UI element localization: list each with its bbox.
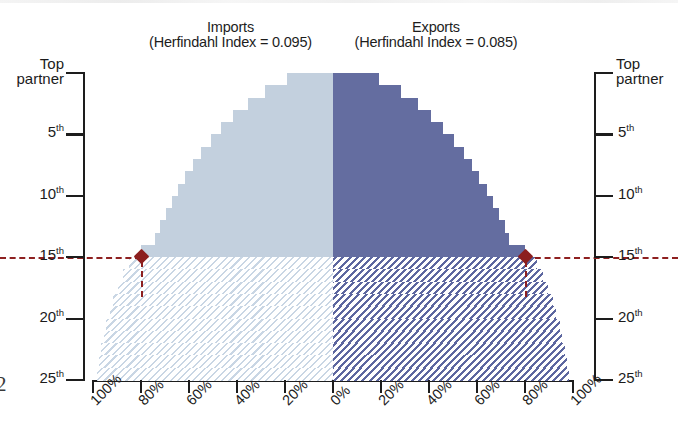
y-tick-top-partner-right — [594, 72, 613, 74]
imports-bar — [172, 196, 333, 209]
y-label-right-5: 5th — [618, 123, 678, 139]
exports-title-line1: Exports — [330, 20, 542, 35]
chart-row — [93, 159, 573, 172]
exports-bar — [333, 331, 562, 344]
exports-bar — [333, 294, 553, 307]
exports-bar — [333, 269, 543, 282]
chart-row — [93, 184, 573, 197]
imports-title-line2: (Herfindahl Index = 0.095) — [128, 35, 333, 50]
exports-bar — [333, 355, 567, 368]
chart-row — [93, 331, 573, 344]
chart-row — [93, 220, 573, 233]
chart-row — [93, 73, 573, 86]
imports-bar — [287, 73, 333, 86]
chart-row — [93, 147, 573, 160]
y-label-left-5: 5th — [2, 123, 64, 139]
imports-bar — [106, 319, 333, 332]
y-label-right-top-partner: Toppartner — [616, 56, 678, 87]
exports-bar — [333, 343, 565, 356]
y-tick-20-left — [66, 318, 85, 320]
y-tick-5-right — [594, 133, 613, 135]
y-label-right-25: 25th — [618, 369, 678, 385]
exports-bar — [333, 134, 454, 147]
exports-title: Exports (Herfindahl Index = 0.085) — [330, 20, 542, 51]
exports-bar — [333, 319, 560, 332]
y-label-left-10: 10th — [2, 185, 64, 201]
y-label-right-10: 10th — [618, 185, 678, 201]
chart-row — [93, 245, 573, 258]
reference-drop-exports — [525, 261, 527, 297]
y-tick-20-right — [594, 318, 613, 320]
chart-row — [93, 269, 573, 282]
chart-row — [93, 319, 573, 332]
exports-bar — [333, 306, 556, 319]
exports-bar — [333, 233, 509, 246]
plot-area — [93, 73, 573, 380]
imports-bar — [113, 294, 333, 307]
exports-bar — [333, 122, 443, 135]
imports-bar — [178, 184, 333, 197]
chart-row — [93, 368, 573, 381]
chart-row — [93, 233, 573, 246]
chart-row — [93, 98, 573, 111]
exports-bar — [333, 368, 569, 381]
exports-bar — [333, 147, 464, 160]
imports-bar — [99, 355, 333, 368]
imports-bar — [118, 282, 333, 295]
chart-row — [93, 85, 573, 98]
page-edge-artifact-top — [0, 0, 678, 3]
imports-bar — [211, 134, 333, 147]
reference-drop-imports — [141, 261, 143, 297]
imports-bar — [155, 233, 333, 246]
y-tick-15-left — [66, 256, 85, 258]
y-tick-top-partner-left — [66, 72, 85, 74]
y-tick-15-right — [594, 256, 613, 258]
y-tick-25-left — [66, 379, 85, 381]
exports-bar — [333, 73, 379, 86]
imports-bar — [193, 159, 333, 172]
y-label-left-25: 25th — [2, 369, 64, 385]
chart-row — [93, 294, 573, 307]
y-label-right-20: 20th — [618, 308, 678, 324]
imports-bar — [104, 331, 333, 344]
exports-bar — [333, 282, 548, 295]
imports-bar — [221, 122, 333, 135]
chart-row — [93, 122, 573, 135]
imports-title: Imports (Herfindahl Index = 0.095) — [128, 20, 333, 51]
exports-bar — [333, 85, 401, 98]
exports-bar — [333, 196, 493, 209]
exports-bar — [333, 208, 499, 221]
imports-bar — [265, 85, 333, 98]
chart-row — [93, 343, 573, 356]
imports-bar — [248, 98, 333, 111]
exports-bar — [333, 159, 472, 172]
chart-row — [93, 196, 573, 209]
exports-bar — [333, 220, 505, 233]
y-label-left-top-line2: partner — [16, 70, 64, 87]
chart-row — [93, 257, 573, 270]
imports-bar — [110, 306, 333, 319]
y-label-right-15: 15th — [618, 246, 678, 262]
y-label-left-15: 15th — [2, 246, 64, 262]
imports-bar — [141, 245, 333, 258]
chart-row — [93, 110, 573, 123]
imports-title-line1: Imports — [128, 20, 333, 35]
imports-bar — [123, 269, 333, 282]
exports-bar — [333, 257, 537, 270]
y-tick-10-left — [66, 195, 85, 197]
y-label-left-20: 20th — [2, 308, 64, 324]
chart-row — [93, 208, 573, 221]
exports-bar — [333, 98, 418, 111]
imports-bar — [201, 147, 333, 160]
exports-bar — [333, 171, 479, 184]
imports-bar — [233, 110, 333, 123]
y-tick-5-left — [66, 133, 85, 135]
imports-bar — [160, 220, 333, 233]
chart-row — [93, 355, 573, 368]
exports-title-line2: (Herfindahl Index = 0.085) — [330, 35, 542, 50]
y-tick-10-right — [594, 195, 613, 197]
y-label-right-top-line2: partner — [616, 70, 664, 87]
y-axis-right-spine — [594, 73, 596, 379]
chart-row — [93, 134, 573, 147]
imports-bar — [185, 171, 333, 184]
